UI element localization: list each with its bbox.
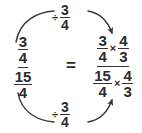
right-denominator-second-fraction: 4 3	[122, 68, 132, 100]
equals-sign: =	[60, 56, 82, 76]
left-numerator-bottom: 4	[18, 50, 28, 65]
left-complex-numerator: 3 4	[18, 34, 28, 68]
right-numerator-multiply-icon: ×	[108, 43, 118, 54]
bottom-divide-icon: ÷	[52, 109, 58, 120]
left-denominator-top: 15	[14, 69, 33, 85]
right-denominator-first-top: 15	[93, 68, 112, 84]
left-complex-fraction: 3 4 15 4	[14, 34, 33, 100]
right-numerator-second-fraction: 4 3	[118, 33, 128, 65]
left-complex-denominator: 15 4	[14, 68, 33, 101]
bottom-arrow-label: ÷ 3 4	[52, 100, 70, 130]
right-denominator-first-fraction: 15 4	[93, 68, 112, 100]
bottom-arrow-operand-fraction: 3 4	[60, 100, 70, 130]
left-numerator-fraction: 3 4	[18, 34, 28, 66]
right-numerator-second-top: 4	[118, 33, 128, 49]
top-divide-icon: ÷	[52, 12, 58, 23]
top-curved-arrow-head-segment	[88, 11, 112, 33]
right-complex-numerator: 3 4 × 4 3	[97, 33, 128, 67]
bottom-arrow-operand-numerator: 3	[60, 100, 70, 115]
right-numerator-second-bottom: 3	[118, 49, 128, 64]
left-expression: 3 4 15 4	[4, 34, 42, 100]
right-numerator-first-top: 3	[97, 33, 107, 49]
right-denominator-first-bottom: 4	[97, 84, 107, 99]
top-arrow-operand-fraction: 3 4	[60, 3, 70, 33]
top-arrow-label: ÷ 3 4	[52, 3, 70, 33]
right-complex-denominator: 15 4 × 4 3	[93, 67, 132, 100]
right-denominator-second-bottom: 3	[122, 84, 132, 99]
right-numerator-first-fraction: 3 4	[97, 33, 107, 65]
right-complex-fraction: 3 4 × 4 3 15 4 × 4 3	[93, 33, 132, 99]
right-denominator-second-top: 4	[122, 68, 132, 84]
top-arrow-operand-denominator: 4	[60, 18, 70, 32]
right-numerator-first-bottom: 4	[97, 49, 107, 64]
left-denominator-fraction: 15 4	[14, 69, 33, 101]
fraction-diagram: ÷ 3 4 ÷ 3 4 3 4 15 4	[0, 0, 142, 133]
right-denominator-multiply-icon: ×	[112, 78, 122, 89]
left-numerator-top: 3	[18, 34, 28, 50]
top-arrow-operand-numerator: 3	[60, 3, 70, 18]
right-expression: 3 4 × 4 3 15 4 × 4 3	[84, 33, 142, 99]
left-denominator-bottom: 4	[18, 85, 28, 100]
bottom-curved-arrow-head-segment	[88, 100, 112, 122]
bottom-arrow-operand-denominator: 4	[60, 115, 70, 129]
